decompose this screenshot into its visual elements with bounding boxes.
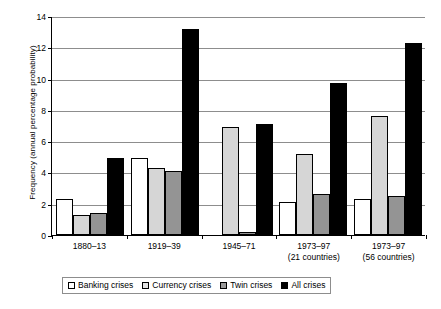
bar-chart: Frequency (annual percentage probability… xyxy=(0,0,441,309)
bar-slot xyxy=(222,17,239,235)
bar-slot xyxy=(405,17,422,235)
bar-slot xyxy=(90,17,107,235)
legend-label: Banking crises xyxy=(78,280,133,290)
bar-currency-crises xyxy=(222,127,239,235)
x-tick-mark xyxy=(276,235,277,239)
bar-group xyxy=(53,17,127,235)
bar-all-crises xyxy=(330,83,347,235)
bar-all-crises xyxy=(107,158,124,235)
bar-group xyxy=(202,17,276,235)
x-tick-mark xyxy=(202,235,203,239)
y-tick-mark xyxy=(48,173,52,174)
y-tick-label: 14 xyxy=(37,13,46,22)
x-axis-labels: 1880–131919–391945–711973–97(21 countrie… xyxy=(52,241,426,263)
legend-swatch-twin xyxy=(220,282,227,289)
bar-twin-crises xyxy=(313,194,330,235)
y-tick-mark xyxy=(48,80,52,81)
bar-twin-crises xyxy=(239,232,256,235)
bar-currency-crises xyxy=(371,116,388,235)
bar-slot xyxy=(354,17,371,235)
bar-slot xyxy=(165,17,182,235)
y-tick-mark xyxy=(48,17,52,18)
y-tick-mark xyxy=(48,142,52,143)
bar-slot xyxy=(239,17,256,235)
legend-item[interactable]: Banking crises xyxy=(68,280,133,290)
page-footer-fragment xyxy=(100,300,430,307)
bar-slot xyxy=(296,17,313,235)
bar-slot xyxy=(131,17,148,235)
x-axis-label-period: 1973–97 xyxy=(372,241,405,251)
bar-banking-crises xyxy=(56,199,73,235)
x-tick-mark xyxy=(351,235,352,239)
y-tick-label: 10 xyxy=(37,75,46,84)
x-axis-label: 1880–13 xyxy=(52,241,127,263)
bar-twin-crises xyxy=(388,196,405,235)
bar-slot xyxy=(371,17,388,235)
bar-slot xyxy=(388,17,405,235)
bar-currency-crises xyxy=(148,168,165,235)
plot-area: 02468101214 xyxy=(51,17,425,236)
legend-swatch-banking xyxy=(68,282,75,289)
bar-banking-crises xyxy=(131,158,148,235)
y-tick-label: 0 xyxy=(41,232,46,241)
legend-item[interactable]: All crises xyxy=(281,280,325,290)
legend-item[interactable]: Twin crises xyxy=(220,280,272,290)
bar-group xyxy=(276,17,350,235)
bar-banking-crises xyxy=(354,199,371,235)
x-axis-label: 1945–71 xyxy=(202,241,277,263)
bar-slot xyxy=(73,17,90,235)
bar-twin-crises xyxy=(90,213,107,235)
x-tick-mark xyxy=(52,235,53,239)
y-tick-label: 8 xyxy=(41,107,46,116)
bar-slot xyxy=(205,17,222,235)
bar-all-crises xyxy=(256,124,273,235)
bar-currency-crises xyxy=(73,215,90,235)
bar-twin-crises xyxy=(165,171,182,235)
bar-groups xyxy=(53,17,425,235)
x-axis-label-countries: (56 countries) xyxy=(351,252,426,263)
bar-banking-crises xyxy=(279,202,296,235)
bar-slot xyxy=(279,17,296,235)
bar-slot xyxy=(107,17,124,235)
legend-label: All crises xyxy=(291,280,325,290)
x-axis-label-period: 1945–71 xyxy=(222,241,255,251)
x-axis-label-countries: (21 countries) xyxy=(276,252,351,263)
x-tick-mark xyxy=(426,235,427,239)
bar-slot xyxy=(313,17,330,235)
bar-group xyxy=(127,17,201,235)
legend-label: Twin crises xyxy=(230,280,272,290)
legend-label: Currency crises xyxy=(152,280,211,290)
x-tick-mark xyxy=(127,235,128,239)
y-tick-label: 6 xyxy=(41,138,46,147)
y-tick-mark xyxy=(48,48,52,49)
bar-all-crises xyxy=(405,43,422,235)
bar-slot xyxy=(330,17,347,235)
bar-slot xyxy=(56,17,73,235)
bar-group xyxy=(351,17,425,235)
y-tick-mark xyxy=(48,111,52,112)
x-axis-label-period: 1880–13 xyxy=(73,241,106,251)
x-axis-label: 1973–97(56 countries) xyxy=(351,241,426,263)
bar-currency-crises xyxy=(296,154,313,235)
y-tick-mark xyxy=(48,205,52,206)
bar-all-crises xyxy=(182,29,199,235)
y-tick-label: 12 xyxy=(37,44,46,53)
bar-slot xyxy=(148,17,165,235)
chart-legend: Banking crisesCurrency crisesTwin crises… xyxy=(62,277,331,294)
bar-slot xyxy=(182,17,199,235)
x-axis-label-period: 1919–39 xyxy=(148,241,181,251)
y-tick-label: 4 xyxy=(41,169,46,178)
legend-swatch-all xyxy=(281,282,288,289)
y-axis-title: Frequency (annual percentage probability… xyxy=(28,13,37,233)
y-tick-label: 2 xyxy=(41,200,46,209)
bar-slot xyxy=(256,17,273,235)
legend-swatch-currency xyxy=(142,282,149,289)
x-axis-label: 1919–39 xyxy=(127,241,202,263)
x-axis-label: 1973–97(21 countries) xyxy=(276,241,351,263)
legend-item[interactable]: Currency crises xyxy=(142,280,211,290)
x-axis-label-period: 1973–97 xyxy=(297,241,330,251)
